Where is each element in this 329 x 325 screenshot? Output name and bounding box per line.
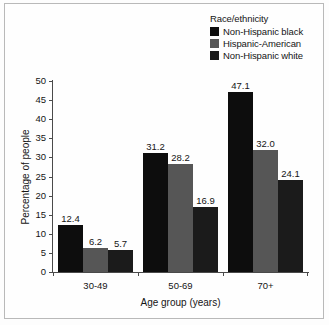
y-axis-tick-label: 0 bbox=[41, 266, 46, 277]
bar-value-label: 6.2 bbox=[89, 236, 102, 247]
bar: 31.2 bbox=[143, 153, 168, 272]
x-axis-tick bbox=[138, 272, 139, 276]
bar: 47.1 bbox=[228, 92, 253, 272]
y-axis-tick: 25 bbox=[49, 177, 53, 178]
bar: 5.7 bbox=[108, 250, 133, 272]
y-axis-tick: 30 bbox=[49, 157, 53, 158]
y-axis-tick-label: 20 bbox=[35, 190, 46, 201]
y-axis-tick: 50 bbox=[49, 81, 53, 82]
bar: 28.2 bbox=[168, 164, 193, 272]
legend-label-series-1: Hispanic-American bbox=[223, 38, 301, 49]
bar-value-label: 16.9 bbox=[196, 195, 215, 206]
y-axis-tick: 15 bbox=[49, 215, 53, 216]
x-axis-tick-label: 30-49 bbox=[83, 280, 107, 291]
bar-value-label: 31.2 bbox=[146, 141, 165, 152]
x-axis-tick-label: 50-69 bbox=[168, 280, 192, 291]
y-axis-tick-label: 10 bbox=[35, 228, 46, 239]
chart-legend: Race/ethnicity Non-Hispanic black Hispan… bbox=[210, 13, 328, 61]
bar-value-label: 32.0 bbox=[256, 138, 275, 149]
chart-figure: Race/ethnicity Non-Hispanic black Hispan… bbox=[0, 0, 329, 325]
legend-swatch-icon-series-1 bbox=[210, 39, 219, 48]
legend-swatch-icon-series-0 bbox=[210, 27, 219, 36]
x-axis-tick-label: 70+ bbox=[257, 280, 273, 291]
bar: 16.9 bbox=[193, 207, 218, 272]
y-axis-tick-label: 45 bbox=[35, 94, 46, 105]
legend-title: Race/ethnicity bbox=[210, 13, 328, 25]
legend-label-series-2: Non-Hispanic white bbox=[223, 50, 303, 61]
y-axis-tick-label: 35 bbox=[35, 132, 46, 143]
y-axis-tick-label: 40 bbox=[35, 113, 46, 124]
x-axis-tick bbox=[53, 272, 54, 276]
bar-value-label: 24.1 bbox=[281, 168, 300, 179]
legend-item-non-hispanic-white: Non-Hispanic white bbox=[210, 49, 328, 61]
y-axis-tick-label: 50 bbox=[35, 75, 46, 86]
x-axis-title: Age group (years) bbox=[52, 297, 309, 308]
y-axis-tick-label: 15 bbox=[35, 209, 46, 220]
legend-item-non-hispanic-black: Non-Hispanic black bbox=[210, 25, 328, 37]
bar-value-label: 5.7 bbox=[114, 238, 127, 249]
bar: 12.4 bbox=[58, 225, 83, 272]
y-axis-tick-label: 30 bbox=[35, 151, 46, 162]
x-axis-line bbox=[52, 272, 309, 273]
y-axis-tick: 45 bbox=[49, 100, 53, 101]
legend-item-hispanic-american: Hispanic-American bbox=[210, 37, 328, 49]
x-axis-tick bbox=[307, 272, 308, 276]
y-axis-tick-label: 25 bbox=[35, 171, 46, 182]
bar: 6.2 bbox=[83, 248, 108, 272]
bar-value-label: 28.2 bbox=[171, 152, 190, 163]
y-axis-tick: 5 bbox=[49, 253, 53, 254]
bar: 24.1 bbox=[278, 180, 303, 272]
legend-swatch-icon-series-2 bbox=[210, 51, 219, 60]
legend-label-series-0: Non-Hispanic black bbox=[223, 26, 303, 37]
y-axis-tick: 20 bbox=[49, 196, 53, 197]
plot-area: Percentage of people 0510152025303540455… bbox=[53, 81, 308, 272]
y-axis-title: Percentage of people bbox=[20, 129, 31, 224]
y-axis-tick: 35 bbox=[49, 138, 53, 139]
y-axis-tick: 10 bbox=[49, 234, 53, 235]
x-axis-tick bbox=[223, 272, 224, 276]
bar-value-label: 47.1 bbox=[231, 80, 250, 91]
y-axis-tick: 40 bbox=[49, 119, 53, 120]
y-axis-tick-label: 5 bbox=[41, 247, 46, 258]
bar: 32.0 bbox=[253, 150, 278, 272]
bar-value-label: 12.4 bbox=[61, 213, 80, 224]
